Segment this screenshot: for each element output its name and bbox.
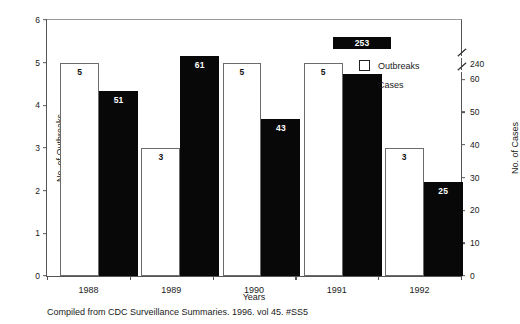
legend-label: Outbreaks bbox=[378, 61, 420, 71]
chart-legend: Outbreaks Cases bbox=[359, 60, 420, 98]
y-tick-right-240: 240 bbox=[461, 60, 507, 69]
plot-area: No. of Outbreaks No. of Cases 0 1 2 3 4 … bbox=[46, 19, 462, 277]
y-tick-left-label: 0 bbox=[35, 271, 40, 281]
y-tick-left-label: 4 bbox=[35, 100, 40, 110]
y-tick-right-label: 30 bbox=[470, 172, 479, 182]
tick-mark bbox=[461, 112, 465, 113]
y-tick-left-label: 1 bbox=[35, 228, 40, 238]
y-tick-left: 6 bbox=[1, 16, 47, 25]
tick-mark bbox=[461, 79, 465, 80]
white-square-icon bbox=[359, 60, 370, 71]
x-tick-mark bbox=[213, 276, 214, 280]
bar-value-label: 43 bbox=[262, 124, 299, 133]
bar-cases-1990[interactable]: 43 bbox=[261, 119, 300, 276]
x-tick-mark bbox=[295, 276, 296, 280]
y-tick-left: 4 bbox=[1, 101, 47, 110]
y-tick-left-label: 2 bbox=[35, 185, 40, 195]
bar-value-label: 5 bbox=[61, 68, 98, 77]
y-tick-right: 10 bbox=[461, 239, 507, 248]
y-tick-right: 40 bbox=[461, 141, 507, 150]
bar-cases-1992[interactable]: 25 bbox=[424, 182, 463, 276]
bar-value-label-cases-1991: 253 bbox=[333, 37, 392, 49]
bar-outbreaks-1988[interactable]: 5 bbox=[60, 63, 99, 276]
bar-outbreaks-1992[interactable]: 3 bbox=[385, 148, 424, 276]
black-square-icon bbox=[359, 79, 370, 90]
x-tick-mark bbox=[378, 276, 379, 280]
x-tick-mark bbox=[47, 276, 48, 280]
legend-item-outbreaks[interactable]: Outbreaks bbox=[359, 60, 420, 71]
y-tick-right: 60 bbox=[461, 75, 507, 84]
bars-layer: 5 51 3 61 5 43 5 253 bbox=[47, 20, 461, 276]
bar-value-label: 51 bbox=[100, 96, 137, 105]
bar-outbreaks-1989[interactable]: 3 bbox=[141, 148, 180, 276]
bar-value-label: 5 bbox=[305, 68, 342, 77]
y-tick-right-label: 240 bbox=[470, 59, 484, 69]
y-tick-right-label: 50 bbox=[470, 107, 479, 117]
y-tick-left: 5 bbox=[1, 58, 47, 67]
y-tick-right: 20 bbox=[461, 206, 507, 215]
y-tick-right-label: 60 bbox=[470, 74, 479, 84]
y-tick-right: 50 bbox=[461, 108, 507, 117]
bar-value-label: 61 bbox=[181, 61, 218, 70]
bar-value-label: 3 bbox=[142, 153, 179, 162]
bar-cases-1988[interactable]: 51 bbox=[99, 91, 138, 276]
y-tick-left: 1 bbox=[1, 229, 47, 238]
x-tick-mark bbox=[461, 276, 462, 280]
y-tick-right-label: 0 bbox=[470, 271, 475, 281]
x-tick-mark bbox=[130, 276, 131, 280]
bar-cases-1989[interactable]: 61 bbox=[180, 56, 219, 276]
bar-value-label: 5 bbox=[224, 68, 261, 77]
tick-mark bbox=[461, 144, 465, 145]
y-tick-left: 3 bbox=[1, 144, 47, 153]
y-tick-left: 0 bbox=[1, 272, 47, 281]
y-tick-left: 2 bbox=[1, 186, 47, 195]
legend-label: Cases bbox=[378, 80, 404, 90]
figure-caption: Compiled from CDC Surveillance Summaries… bbox=[47, 307, 308, 317]
bar-outbreaks-1990[interactable]: 5 bbox=[223, 63, 262, 276]
x-axis-label: Years bbox=[46, 292, 462, 302]
y-axis-right-label: No. of Cases bbox=[510, 78, 520, 218]
bar-value-label: 3 bbox=[386, 153, 423, 162]
y-tick-right-label: 20 bbox=[470, 205, 479, 215]
y-tick-right: 0 bbox=[461, 272, 507, 281]
y-tick-left-label: 6 bbox=[35, 15, 40, 25]
legend-item-cases[interactable]: Cases bbox=[359, 79, 420, 90]
bar-value-label: 25 bbox=[425, 187, 462, 196]
y-tick-right-label: 40 bbox=[470, 140, 479, 150]
y-tick-right: 30 bbox=[461, 173, 507, 182]
bar-outbreaks-1991[interactable]: 5 bbox=[304, 63, 343, 276]
y-tick-left-label: 3 bbox=[35, 143, 40, 153]
y-tick-right-label: 10 bbox=[470, 238, 479, 248]
tick-mark bbox=[461, 177, 465, 178]
y-tick-left-label: 5 bbox=[35, 57, 40, 67]
bar-cases-1991[interactable] bbox=[343, 74, 382, 276]
